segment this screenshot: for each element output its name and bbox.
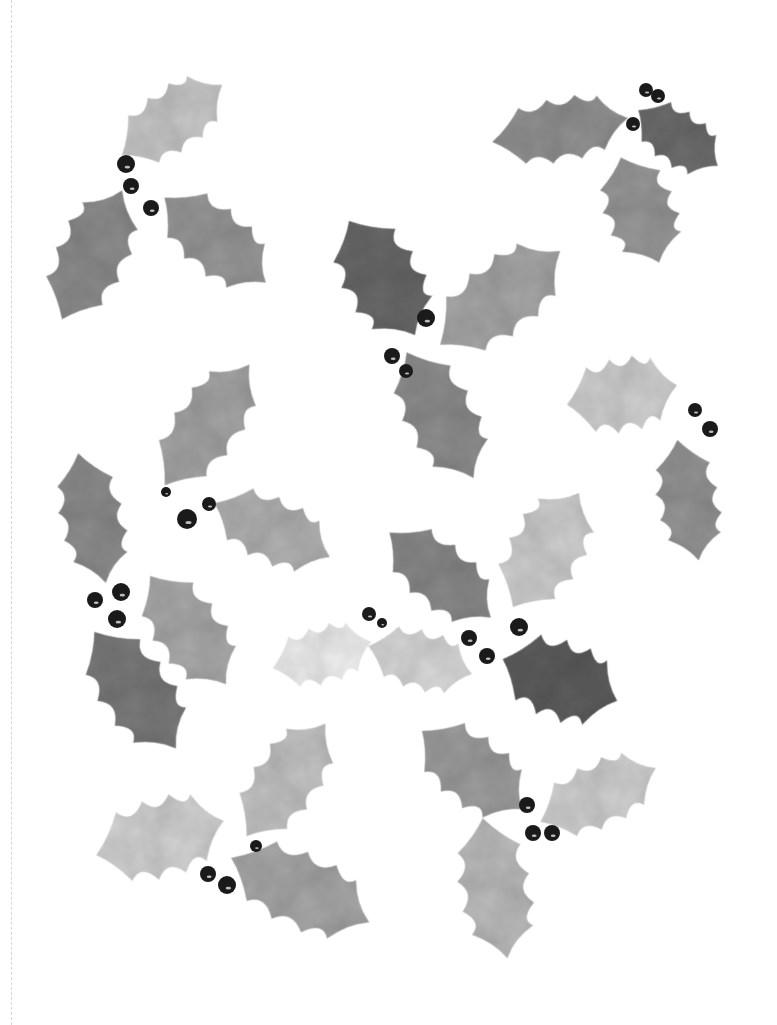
holly-berry [218,876,236,894]
holly-berry [519,797,535,813]
holly-berry [112,583,130,601]
holly-berry [250,840,262,852]
holly-berry [362,607,376,621]
holly-berry [702,421,718,437]
holly-berry [177,509,197,529]
holly-leaf [31,177,154,333]
berry-highlight [208,505,212,507]
holly-leaf [144,173,286,307]
berry-highlight [657,97,661,99]
holly-leaf [490,623,629,737]
berry-highlight [532,835,537,837]
berry-highlight [518,629,523,632]
berry-highlight [226,887,231,890]
berry-highlight [94,602,99,604]
holly-berry [377,618,387,628]
holly-berry [651,89,665,103]
holly-berry [200,866,216,882]
berry-highlight [116,621,121,624]
berry-highlight [381,624,384,626]
holly-berry [123,178,139,194]
holly-berry [202,497,216,511]
berry-highlight [709,431,714,433]
berry-highlight [645,91,649,93]
holly-berry [108,610,126,628]
holly-leaf [266,615,377,695]
berry-highlight [207,876,212,878]
holly-leaf [370,509,511,642]
holly-berry [525,825,541,841]
holly-berry [399,364,413,378]
holly-berry [117,155,135,173]
berry-highlight [130,188,135,190]
berry-highlight [368,615,372,617]
berry-highlight [632,125,636,127]
holly-berry [161,487,171,497]
berry-highlight [526,807,531,809]
holly-berry [417,309,435,327]
holly-berry [626,117,640,131]
holly-leaf [401,704,543,836]
berry-highlight [425,320,430,323]
holly-leaf [220,706,351,854]
holly-berry [510,618,528,636]
holly-leaf [316,202,449,354]
holly-berry [639,83,653,97]
berry-highlight [694,411,698,413]
holly-leaves-group [31,60,733,963]
holly-berry [143,200,159,216]
berry-highlight [551,835,556,837]
berry-highlight [255,847,259,849]
holly-berry [544,825,560,841]
holly-leaf [202,475,342,586]
holly-leaf [138,347,275,504]
holly-leaf [362,618,478,701]
berry-highlight [468,640,473,642]
holly-leaf [216,825,383,955]
holly-berry [87,592,103,608]
holly-berry [688,403,702,417]
berry-highlight [120,594,125,597]
holly-leaf [488,88,632,173]
holly-leaf [48,448,136,588]
berry-highlight [165,493,168,495]
berry-highlight [486,658,491,660]
holly-berry [384,348,400,364]
holly-watercolor-artwork [0,0,777,1025]
holly-leaf [481,475,610,625]
holly-berry [479,648,495,664]
berry-highlight [186,521,192,524]
holly-leaf [648,436,728,565]
berry-highlight [391,358,396,360]
berry-highlight [150,210,155,212]
holly-leaf [562,350,683,440]
holly-berry [461,630,477,646]
berry-highlight [125,166,130,169]
berry-highlight [405,372,409,374]
holly-leaf [418,223,582,374]
